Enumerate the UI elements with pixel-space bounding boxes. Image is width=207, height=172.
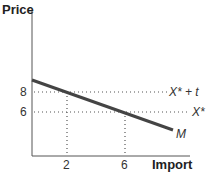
x-tick-6: 6 xyxy=(121,158,128,172)
y-tick-6: 6 xyxy=(20,105,27,119)
y-axis-label: Price xyxy=(2,2,34,17)
x-axis-label: Import xyxy=(152,157,192,172)
curve-m-label: M xyxy=(176,127,186,141)
y-tick-8: 8 xyxy=(20,85,27,99)
x-star-plus-t-label: X* + t xyxy=(169,85,199,99)
x-star-label: X* xyxy=(192,105,205,119)
import-demand-curve xyxy=(32,80,173,130)
x-tick-2: 2 xyxy=(63,158,70,172)
